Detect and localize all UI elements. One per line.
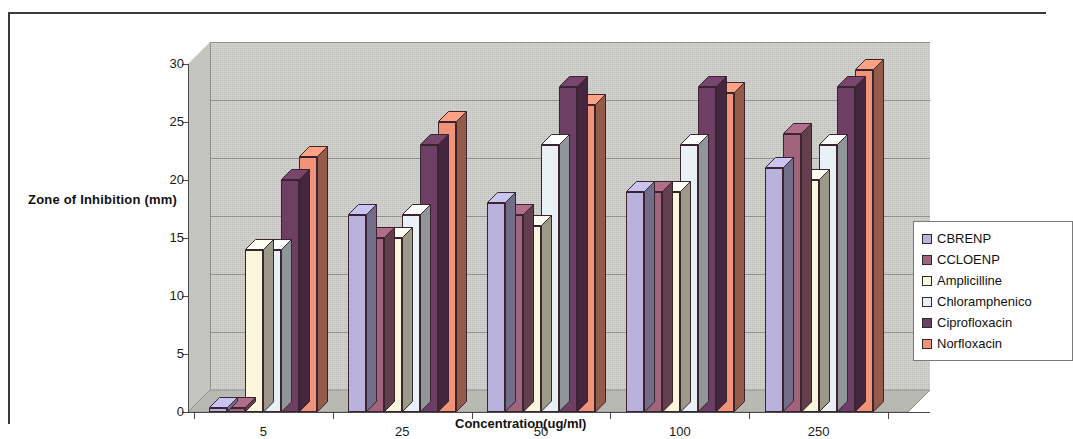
y-tick-label: 20 [170,172,184,187]
x-tick-mark [749,412,750,419]
legend-label: CBRENP [937,231,991,246]
x-axis-label: 5 [260,424,267,439]
bar-front-face [487,203,505,412]
y-tick: 30 [188,64,189,65]
bar-top-outline [698,76,728,88]
bar-top-outline [438,111,468,123]
bar-top-outline [299,146,329,158]
y-tick-label: 25 [170,114,184,129]
y-tick-label: 10 [170,288,184,303]
y-tick-label: 15 [170,230,184,245]
bar-side-outline [402,227,414,413]
bar-top-outline [348,204,378,216]
bar-top-outline [783,123,813,135]
y-tick-label: 0 [177,404,184,419]
x-axis-label: 25 [395,424,409,439]
legend-list: CBRENPCCLOENPAmplicillineChloramphenicoC… [922,228,1066,354]
bar [487,203,505,412]
bar-side-outline [855,76,867,413]
bar-side-outline [456,111,468,413]
y-tick: 25 [188,122,189,123]
bar-top-outline [245,239,275,251]
bar [245,250,263,412]
x-axis-label: 100 [669,424,691,439]
bar-top-outline [626,181,656,193]
legend: CBRENPCCLOENPAmplicillineChloramphenicoC… [913,221,1073,361]
chart-frame: Zone of Inhibition (mm) Concentration(ug… [8,12,1046,424]
bar-side-outline [873,59,885,413]
legend-label: Chloramphenico [937,294,1032,309]
bar-side-outline [366,204,378,413]
bar-top-outline [765,157,795,169]
bar-side-outline [734,82,746,413]
bar-top-outline [855,59,885,71]
x-tick-mark [194,412,195,419]
bar-side-outline [716,76,728,413]
gridline [210,42,930,43]
y-axis-title: Zone of Inhibition (mm) [28,192,177,207]
legend-swatch-icon [922,276,932,286]
bar-side-outline [299,169,311,413]
legend-label: CCLOENP [937,252,1000,267]
y-tick: 0 [188,412,189,413]
bar-side-outline [698,134,710,413]
bar-side-outline [281,239,293,413]
bar-side-outline [384,227,396,413]
bar-front-face [348,215,366,412]
bar-top-outline [281,169,311,181]
legend-swatch-icon [922,297,932,307]
legend-item[interactable]: Amplicilline [922,270,1066,291]
bar [626,192,644,412]
plot-left-wall [188,42,211,412]
bar-side-outline [577,76,589,413]
legend-item[interactable]: Chloramphenico [922,291,1066,312]
legend-swatch-icon [922,255,932,265]
bar-front-face [626,192,644,412]
bar-side-outline [662,181,674,413]
bar-side-outline [680,181,692,413]
x-axis-title: Concentration(ug/ml) [455,416,586,431]
legend-swatch-icon [922,339,932,349]
bar-side-outline [523,204,535,413]
bar-side-outline [801,123,813,413]
bar-front-face [245,250,263,412]
legend-label: Ciprofloxacin [937,315,1012,330]
x-tick-mark [888,412,889,419]
bar-front-face [765,168,783,412]
bar-side-outline [644,181,656,413]
bar-side-outline [819,169,831,413]
bar-side-outline [783,157,795,413]
bar-top-outline [402,204,432,216]
bar-side-outline [837,134,849,413]
bar [348,215,366,412]
legend-swatch-icon [922,234,932,244]
bar-side-outline [559,134,571,413]
legend-item[interactable]: Norfloxacin [922,333,1066,354]
bar-top-outline [420,134,450,146]
legend-item[interactable]: CBRENP [922,228,1066,249]
legend-item[interactable]: CCLOENP [922,249,1066,270]
bar-side-outline [541,215,553,413]
bar-side-outline [263,239,275,413]
y-tick: 20 [188,180,189,181]
y-tick-label: 30 [170,56,184,71]
bar-top-outline [541,134,571,146]
bar-top-outline [837,76,867,88]
y-tick-label: 5 [177,346,184,361]
y-tick: 15 [188,238,189,239]
x-axis-label: 50 [534,424,548,439]
y-tick: 10 [188,296,189,297]
legend-swatch-icon [922,318,932,328]
x-tick-mark [333,412,334,419]
bar-top-outline [819,134,849,146]
bar-side-outline [420,204,432,413]
bar-side-outline [595,94,607,413]
legend-label: Norfloxacin [937,336,1002,351]
bar-side-outline [505,192,517,413]
bar-side-outline [317,146,329,413]
legend-item[interactable]: Ciprofloxacin [922,312,1066,333]
x-axis-label: 250 [808,424,830,439]
x-tick-mark [472,412,473,419]
bar-top-outline [209,397,239,409]
bar-top-outline [487,192,517,204]
